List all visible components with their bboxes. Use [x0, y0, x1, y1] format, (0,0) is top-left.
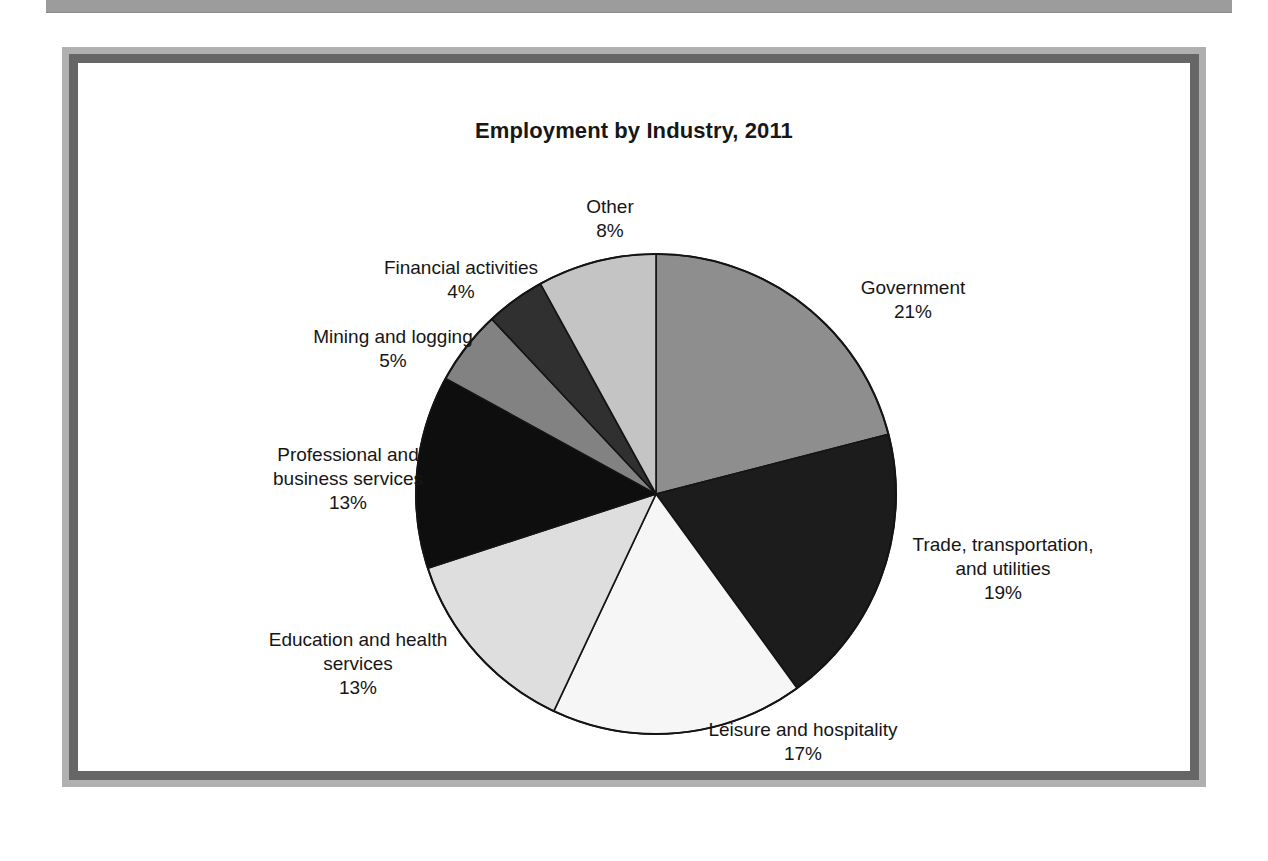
pie-label-financial-activities: Financial activities 4%: [346, 256, 576, 304]
page-top-rule: [46, 0, 1232, 13]
pie-label-professional-and-business-services: Professional and business services 13%: [228, 443, 468, 515]
pie-label-mining-and-logging: Mining and logging 5%: [278, 325, 508, 373]
chart-title: Employment by Industry, 2011: [78, 118, 1190, 144]
scanned-page: Employment by Industry, 2011 Government …: [0, 0, 1268, 861]
pie-slice: [554, 494, 797, 734]
pie-label-trade-transportation-and-utilities: Trade, transportation, and utilities 19%: [878, 533, 1128, 605]
pie-label-government: Government 21%: [808, 276, 1018, 324]
figure-outer-frame: Employment by Industry, 2011 Government …: [62, 47, 1206, 787]
pie-label-education-and-health-services: Education and health services 13%: [228, 628, 488, 700]
pie-label-leisure-and-hospitality: Leisure and hospitality 17%: [658, 718, 948, 766]
pie-label-other: Other 8%: [525, 195, 695, 243]
pie-slice: [492, 284, 656, 494]
pie-slice: [656, 434, 896, 688]
chart-plot-area: Employment by Industry, 2011 Government …: [78, 63, 1190, 771]
figure-inner-frame: Employment by Industry, 2011 Government …: [69, 54, 1199, 780]
